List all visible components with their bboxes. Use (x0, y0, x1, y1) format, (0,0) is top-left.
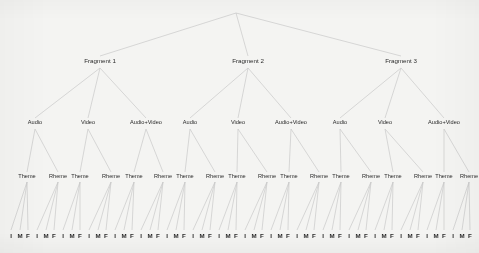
tree-node-theme-rheme: Theme (228, 174, 245, 180)
tree-edge (238, 129, 267, 172)
tree-node-position: I (374, 233, 376, 239)
tree-edge (146, 129, 163, 172)
tree-node-theme-rheme: Theme (176, 174, 193, 180)
tree-node-position: F (234, 233, 238, 239)
tree-node-media: Video (81, 120, 95, 126)
tree-edge-leaf (418, 182, 423, 230)
tree-edge-leaf (280, 182, 289, 230)
tree-node-position: M (329, 233, 334, 239)
tree-edge (340, 129, 371, 172)
tree-node-position: M (69, 233, 74, 239)
tree-node-position: M (199, 233, 204, 239)
tree-node-fragment: Fragment 2 (232, 58, 264, 64)
tree-edge-leaf (167, 182, 185, 230)
tree-node-position: M (303, 233, 308, 239)
tree-node-fragment: Fragment 3 (385, 58, 417, 64)
tree-edge-leaf (184, 182, 185, 230)
tree-node-position: F (442, 233, 446, 239)
tree-edge-leaf (63, 182, 80, 230)
tree-node-theme-rheme: Rheme (362, 174, 380, 180)
tree-node-position: M (355, 233, 360, 239)
tree-edge-leaf (20, 182, 27, 230)
tree-node-theme-rheme: Theme (71, 174, 88, 180)
tree-node-position: F (338, 233, 342, 239)
tree-node-media: Video (378, 120, 392, 126)
tree-edge (80, 129, 88, 172)
tree-edge-leaf (366, 182, 371, 230)
tree-edge (385, 129, 393, 172)
tree-edge-leaf (375, 182, 393, 230)
tree-edge (100, 13, 236, 56)
tree-edge (444, 129, 469, 172)
tree-node-position: M (459, 233, 464, 239)
tree-node-theme-rheme: Theme (435, 174, 452, 180)
tree-node-position: F (26, 233, 30, 239)
tree-node-media: Audio+Video (130, 120, 162, 126)
tree-edges-layer (0, 0, 479, 253)
tree-node-position: I (10, 233, 12, 239)
tree-edge (248, 68, 291, 118)
tree-node-position: I (348, 233, 350, 239)
tree-edge-leaf (11, 182, 27, 230)
tree-node-position: F (260, 233, 264, 239)
tree-node-position: I (166, 233, 168, 239)
tree-node-position: M (251, 233, 256, 239)
tree-node-theme-rheme: Theme (18, 174, 35, 180)
tree-node-theme-rheme: Rheme (102, 174, 120, 180)
tree-edge (27, 129, 35, 172)
tree-node-position: F (130, 233, 134, 239)
tree-edge (100, 68, 146, 118)
tree-node-theme-rheme: Rheme (49, 174, 67, 180)
tree-node-position: F (364, 233, 368, 239)
tree-node-position: I (426, 233, 428, 239)
tree-edge-leaf (176, 182, 185, 230)
tree-node-position: F (208, 233, 212, 239)
tree-node-position: I (296, 233, 298, 239)
tree-edge (236, 13, 401, 56)
tree-node-media: Audio+Video (428, 120, 460, 126)
tree-node-theme-rheme: Theme (332, 174, 349, 180)
tree-node-position: F (468, 233, 472, 239)
tree-node-theme-rheme: Rheme (258, 174, 276, 180)
tree-edge-leaf (469, 182, 470, 230)
tree-node-position: M (43, 233, 48, 239)
tree-edge (289, 129, 291, 172)
tree-edge-leaf (332, 182, 341, 230)
tree-node-position: M (225, 233, 230, 239)
tree-node-media: Audio (183, 120, 197, 126)
tree-edge (385, 68, 401, 118)
tree-node-theme-rheme: Rheme (310, 174, 328, 180)
tree-edge-leaf (340, 182, 341, 230)
tree-node-position: I (114, 233, 116, 239)
tree-node-position: I (400, 233, 402, 239)
tree-edge (35, 68, 100, 118)
tree-node-position: I (270, 233, 272, 239)
tree-edge (237, 129, 238, 172)
tree-node-fragment: Fragment 1 (84, 58, 116, 64)
media-fragment-tree-diagram: Fragment 1Fragment 2Fragment 3AudioVideo… (0, 0, 479, 253)
tree-node-position: M (381, 233, 386, 239)
tree-node-position: I (62, 233, 64, 239)
tree-edge-leaf (262, 182, 267, 230)
tree-edge-leaf (392, 182, 393, 230)
tree-edge-leaf (384, 182, 393, 230)
tree-node-theme-rheme: Theme (125, 174, 142, 180)
tree-node-position: F (312, 233, 316, 239)
tree-edge-leaf (158, 182, 163, 230)
tree-edge-leaf (106, 182, 111, 230)
tree-node-position: F (390, 233, 394, 239)
tree-node-position: F (286, 233, 290, 239)
tree-edge (35, 129, 58, 172)
tree-edge (340, 68, 401, 118)
tree-node-position: M (173, 233, 178, 239)
tree-node-theme-rheme: Theme (384, 174, 401, 180)
tree-node-position: I (244, 233, 246, 239)
tree-node-position: I (88, 233, 90, 239)
tree-edge-leaf (314, 182, 319, 230)
tree-node-position: F (78, 233, 82, 239)
tree-edge-leaf (115, 182, 134, 230)
tree-edge (134, 129, 146, 172)
tree-node-theme-rheme: Theme (280, 174, 297, 180)
tree-node-position: M (433, 233, 438, 239)
tree-edge-leaf (453, 182, 469, 230)
